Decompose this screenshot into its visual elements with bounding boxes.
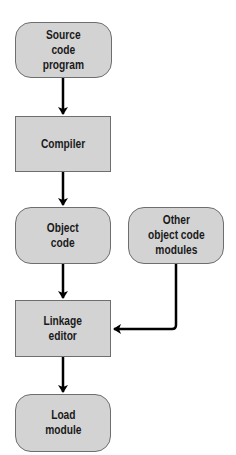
arrow-other-to-linkage — [114, 263, 176, 329]
node-label: Source code program — [43, 28, 84, 73]
node-label: Load module — [45, 408, 81, 438]
node-label: Compiler — [41, 137, 85, 152]
node-label: Linkage editor — [44, 314, 83, 344]
node-other-object-code-modules: Other object code modules — [128, 207, 224, 264]
node-compiler: Compiler — [15, 116, 111, 172]
node-label: Other object code modules — [148, 213, 205, 258]
node-object-code: Object code — [15, 207, 111, 264]
node-linkage-editor: Linkage editor — [15, 300, 111, 357]
node-label: Object code — [47, 221, 79, 251]
node-source-code-program: Source code program — [15, 22, 112, 78]
node-load-module: Load module — [15, 394, 111, 452]
